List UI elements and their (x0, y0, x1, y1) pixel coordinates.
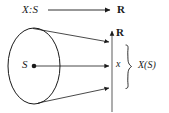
sample-space-center-dot (32, 64, 37, 69)
codomain-top-label: R (117, 4, 125, 15)
mapping-label: X:S (22, 4, 38, 15)
sample-space-label: S (22, 59, 28, 70)
image-range-brace (126, 45, 132, 89)
cone-upper-edge (33, 29, 109, 43)
random-variable-diagram: X:S R R S x X(S) (0, 0, 169, 113)
image-set-label: X(S) (138, 60, 156, 70)
diagram-canvas (0, 0, 169, 113)
codomain-axis-label: R (116, 27, 124, 38)
cone-lower-edge (38, 88, 109, 103)
point-image-label: x (116, 59, 120, 69)
